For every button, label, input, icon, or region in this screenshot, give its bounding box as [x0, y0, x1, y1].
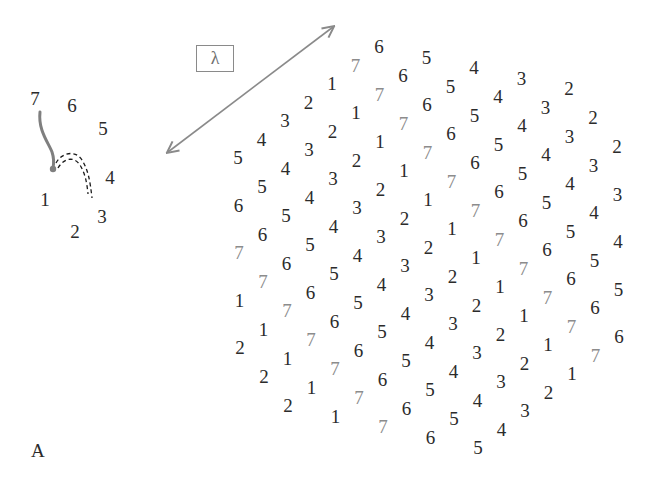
lattice-digit: 6	[306, 282, 316, 301]
lattice-digit: 7	[378, 417, 388, 436]
lattice-digit: 7	[375, 84, 385, 103]
lattice-digit: 7	[471, 200, 481, 219]
lattice-digit: 5	[542, 192, 552, 211]
cycle-digit: 3	[97, 207, 107, 226]
lattice-digit: 5	[518, 163, 528, 182]
lattice-digit: 7	[282, 301, 292, 320]
lattice-digit: 5	[566, 221, 576, 240]
dashed-arc-inner	[58, 159, 88, 194]
lattice-digit: 7	[234, 243, 244, 262]
lattice-digit: 6	[518, 211, 528, 230]
lattice-digit: 5	[446, 76, 456, 95]
lattice-digit: 3	[328, 169, 338, 188]
lattice-digit: 6	[470, 153, 480, 172]
lattice-digit: 6	[234, 195, 244, 214]
lattice-digit: 1	[519, 306, 529, 325]
lattice-digit: 2	[612, 137, 622, 156]
lattice-digit: 3	[352, 198, 362, 217]
lattice-digit: 2	[496, 324, 506, 343]
lattice-digit: 6	[402, 398, 412, 417]
lattice-digit: 5	[329, 264, 339, 283]
lattice-digit: 4	[353, 245, 363, 264]
lattice-digit: 5	[233, 148, 243, 167]
lattice-digit: 1	[471, 248, 481, 267]
lattice-digit: 4	[497, 419, 507, 438]
lattice-digit: 7	[351, 55, 361, 74]
lattice-digit: 3	[448, 314, 458, 333]
lattice-digit: 7	[399, 113, 409, 132]
lattice-digit: 6	[354, 340, 364, 359]
lattice-digit: 3	[565, 126, 575, 145]
lattice-digit: 3	[520, 401, 530, 420]
lattice-digit: 6	[398, 66, 408, 85]
lattice-digit: 5	[377, 322, 387, 341]
cycle-digit: 7	[30, 89, 40, 108]
lattice-digit: 5	[590, 250, 600, 269]
lattice-digit: 5	[449, 409, 459, 428]
cycle-digit: 5	[98, 119, 108, 138]
lattice-digit: 2	[448, 266, 458, 285]
lattice-digit: 1	[259, 319, 269, 338]
lattice-digit: 4	[517, 116, 527, 135]
lattice-digit: 7	[306, 330, 316, 349]
lattice-digit: 6	[590, 298, 600, 317]
lattice-digit: 4	[613, 232, 623, 251]
lattice-digit: 4	[425, 332, 435, 351]
lattice-digit: 7	[495, 229, 505, 248]
lattice-digit: 7	[354, 388, 364, 407]
lattice-digit: 5	[614, 279, 624, 298]
lattice-digit: 3	[400, 256, 410, 275]
lattice-digit: 1	[235, 290, 245, 309]
lattice-digit: 4	[473, 390, 483, 409]
wavelength-arrow	[168, 27, 333, 152]
panel-label: A	[31, 440, 45, 462]
lattice-digit: 4	[377, 274, 387, 293]
lattice-digit: 3	[496, 372, 506, 391]
lattice-digit: 7	[591, 345, 601, 364]
lattice-digit: 3	[472, 343, 482, 362]
lattice-digit: 5	[281, 206, 291, 225]
lattice-digit: 3	[376, 227, 386, 246]
cycle-digit: 6	[67, 96, 77, 115]
lattice-digit: 3	[280, 111, 290, 130]
lattice-digit: 4	[541, 145, 551, 164]
lattice-digit: 6	[542, 240, 552, 259]
lattice-digit: 2	[235, 338, 245, 357]
lattice-digit: 4	[469, 58, 479, 77]
lattice-digit: 2	[304, 92, 314, 111]
lattice-digit: 5	[473, 438, 483, 457]
dashed-arc-outer	[56, 154, 92, 198]
lattice-digit: 6	[282, 253, 292, 272]
lattice-digit: 1	[447, 219, 457, 238]
lattice-digit: 1	[351, 103, 361, 122]
lattice-digit: 2	[588, 108, 598, 127]
lattice-digit: 2	[400, 208, 410, 227]
lattice-digit: 2	[259, 367, 269, 386]
lattice-digit: 2	[328, 121, 338, 140]
lattice-digit: 5	[257, 177, 267, 196]
lattice-digit: 7	[330, 359, 340, 378]
lattice-digit: 4	[449, 361, 459, 380]
cycle-digit: 4	[105, 168, 115, 187]
trajectory-end-dot	[50, 166, 56, 172]
lattice-digit: 3	[589, 155, 599, 174]
lattice-digit: 7	[543, 287, 553, 306]
lattice-digit: 6	[330, 311, 340, 330]
lattice-digit: 1	[307, 377, 317, 396]
lambda-label-box: λ	[196, 45, 234, 72]
lattice-digit: 1	[543, 335, 553, 354]
lattice-digit: 4	[493, 87, 503, 106]
lattice-digit: 7	[567, 316, 577, 335]
lattice-digit: 7	[447, 171, 457, 190]
lattice-digit: 3	[424, 285, 434, 304]
lattice-digit: 5	[422, 47, 432, 66]
lattice-digit: 1	[283, 348, 293, 367]
lattice-digit: 1	[423, 190, 433, 209]
lattice-digit: 7	[258, 272, 268, 291]
lattice-digit: 5	[353, 293, 363, 312]
lattice-digit: 1	[375, 132, 385, 151]
lattice-digit: 7	[519, 258, 529, 277]
lattice-digit: 2	[544, 382, 554, 401]
lattice-digit: 3	[517, 68, 527, 87]
lattice-digit: 6	[378, 369, 388, 388]
